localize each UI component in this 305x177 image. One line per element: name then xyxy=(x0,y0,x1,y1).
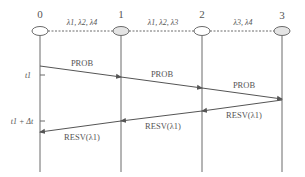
node-0-icon xyxy=(32,27,48,36)
message-label-prob-0-1: PROB xyxy=(71,58,94,68)
node-label-0: 0 xyxy=(37,8,43,20)
link-1-2-wavelengths: λ1, λ2, λ3 xyxy=(147,18,178,27)
sequence-diagram: 0 1 2 3 λ1, λ2, λ4 λ1, λ2, λ3 λ3, λ4 t1 … xyxy=(0,0,305,177)
message-label-resv-2-1: RESV(λ1) xyxy=(145,121,181,131)
node-2-icon xyxy=(194,27,210,36)
link-0-1-wavelengths: λ1, λ2, λ4 xyxy=(66,18,97,27)
time-label-t1: t1 xyxy=(25,71,31,80)
link-2-3-wavelengths: λ3, λ4 xyxy=(233,18,253,27)
node-label-1: 1 xyxy=(118,8,124,20)
resv-arrow-2-1 xyxy=(121,111,202,121)
message-label-resv-3-2: RESV(λ1) xyxy=(226,110,262,120)
resv-arrow-1-0 xyxy=(40,121,121,132)
message-label-prob-1-2: PROB xyxy=(151,69,174,79)
node-label-3: 3 xyxy=(279,9,285,21)
time-label-t1-dt: t1 + Δt xyxy=(11,117,34,126)
message-label-resv-1-0: RESV(λ1) xyxy=(64,132,100,142)
node-3-icon xyxy=(274,27,290,36)
node-1-icon xyxy=(113,27,129,36)
node-label-2: 2 xyxy=(199,8,205,20)
message-label-prob-2-3: PROB xyxy=(233,80,256,90)
